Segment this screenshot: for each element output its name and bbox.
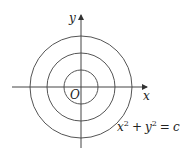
eq-x-exp: 2: [124, 119, 129, 128]
equation-label: x2+y2=c: [117, 119, 180, 134]
eq-plus: +: [132, 120, 142, 134]
diagram-canvas: y x O x2+y2=c: [0, 0, 186, 155]
eq-equals: =: [160, 120, 170, 134]
x-axis-label: x: [143, 89, 150, 103]
origin-label: O: [70, 88, 80, 102]
eq-y-exp: 2: [152, 119, 157, 128]
eq-rhs: c: [173, 120, 180, 134]
y-axis-label: y: [68, 11, 76, 25]
